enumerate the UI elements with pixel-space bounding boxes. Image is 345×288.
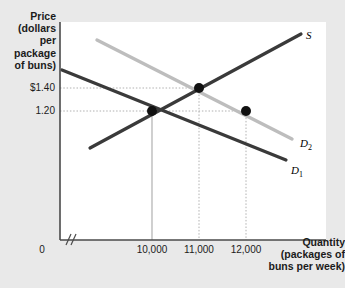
supply-curve-label: S [306, 29, 312, 41]
point-equilibrium-original [147, 106, 157, 116]
origin-label: 0 [12, 244, 72, 255]
y-axis-title-line-1: Price [30, 10, 56, 22]
point-quantity-demanded-at-old-price [241, 106, 251, 116]
y-axis-title: Price(dollarsperpackageof buns) [0, 10, 56, 71]
demand-curve-d2-label-text: D [300, 137, 308, 149]
x-axis-title-line-3: buns per week) [269, 260, 345, 272]
demand-curve-d1-label: D1 [291, 164, 303, 179]
y-axis-title-line-5: of buns) [15, 59, 56, 71]
demand-curve-d1-label-text: D [291, 164, 299, 176]
x-axis-title-line-1: Quantity [302, 236, 345, 248]
y-tick-label-140: $1.40 [3, 82, 55, 93]
y-axis-title-line-4: package [14, 47, 56, 59]
demand-curve-d1-label-sub: 1 [299, 170, 303, 179]
y-axis-title-line-3: per [40, 34, 56, 46]
y-tick-label-120: 1.20 [3, 105, 55, 116]
point-equilibrium-new [194, 83, 204, 93]
demand-curve-d2-label: D2 [300, 137, 312, 152]
plot-area-background [60, 22, 326, 240]
y-axis-title-line-2: (dollars [18, 22, 56, 34]
x-axis-title-line-2: (packages of [281, 248, 345, 260]
x-tick-label-12000: 12,000 [216, 244, 276, 255]
demand-curve-d2-label-sub: 2 [308, 143, 312, 152]
supply-demand-chart: Price(dollarsperpackageof buns) Quantity… [0, 0, 345, 288]
